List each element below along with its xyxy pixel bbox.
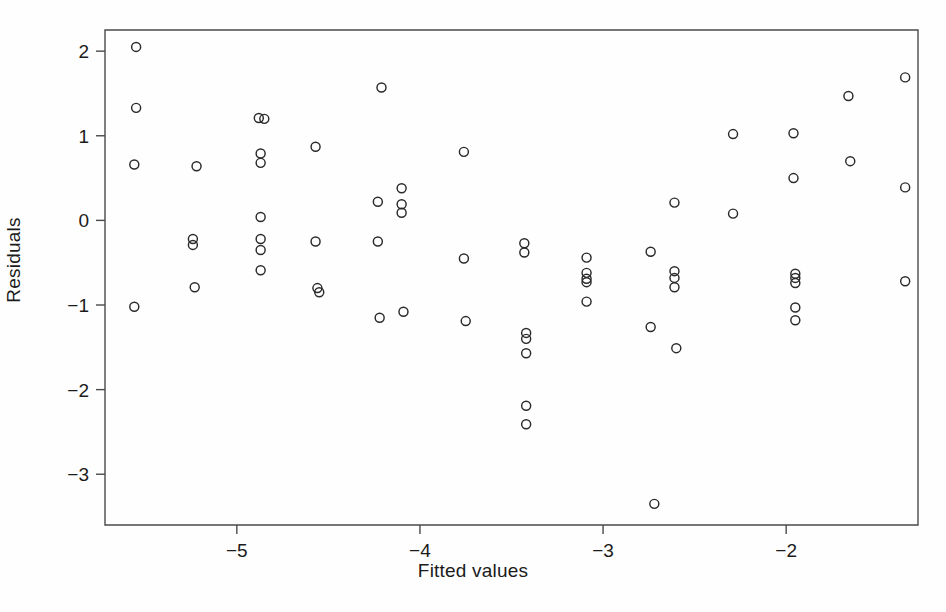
data-point — [397, 208, 406, 217]
data-point — [256, 149, 265, 158]
data-point — [789, 174, 798, 183]
data-point — [130, 302, 139, 311]
data-point — [311, 142, 320, 151]
y-axis-ticks: 210−1−2−3 — [67, 41, 105, 485]
data-point — [188, 240, 197, 249]
plot-canvas: −5−4−3−2 210−1−2−3 — [0, 0, 946, 612]
data-point — [373, 237, 382, 246]
data-point — [522, 401, 531, 410]
data-point — [582, 253, 591, 262]
data-point — [256, 213, 265, 222]
x-tick-label: −2 — [775, 540, 797, 561]
data-point — [256, 266, 265, 275]
data-point — [789, 129, 798, 138]
y-tick-label: 0 — [78, 210, 89, 231]
data-point — [670, 283, 679, 292]
data-point — [844, 92, 853, 101]
data-point — [397, 200, 406, 209]
data-point — [190, 283, 199, 292]
x-axis-ticks: −5−4−3−2 — [226, 525, 797, 561]
data-point — [459, 147, 468, 156]
data-point — [520, 239, 529, 248]
data-point — [901, 183, 910, 192]
data-point — [646, 323, 655, 332]
data-point — [646, 247, 655, 256]
x-tick-label: −3 — [592, 540, 614, 561]
data-point — [377, 83, 386, 92]
data-point — [192, 162, 201, 171]
data-point — [729, 130, 738, 139]
data-point — [520, 248, 529, 257]
data-point — [522, 334, 531, 343]
y-tick-label: −2 — [67, 380, 89, 401]
data-point — [132, 42, 141, 51]
data-point — [672, 344, 681, 353]
data-point — [522, 349, 531, 358]
data-point — [791, 303, 800, 312]
data-point — [132, 103, 141, 112]
y-tick-label: 2 — [78, 41, 89, 62]
data-point — [256, 246, 265, 255]
data-point — [130, 160, 139, 169]
data-point — [256, 235, 265, 244]
data-point — [846, 157, 855, 166]
data-point — [729, 209, 738, 218]
residuals-vs-fitted-scatter-plot: −5−4−3−2 210−1−2−3 Residuals Fitted valu… — [0, 0, 946, 612]
data-point — [461, 317, 470, 326]
data-point — [901, 277, 910, 286]
data-point — [311, 237, 320, 246]
data-point — [901, 73, 910, 82]
x-tick-label: −4 — [409, 540, 431, 561]
y-tick-label: 1 — [78, 126, 89, 147]
data-point — [582, 297, 591, 306]
x-tick-label: −5 — [226, 540, 248, 561]
y-axis-title: Residuals — [3, 160, 25, 360]
x-axis-title: Fitted values — [0, 560, 946, 582]
data-point — [373, 197, 382, 206]
data-point — [522, 420, 531, 429]
y-axis-title-container: Residuals — [3, 160, 33, 360]
y-tick-label: −1 — [67, 295, 89, 316]
data-point — [650, 499, 659, 508]
data-point — [256, 158, 265, 167]
data-point — [399, 307, 408, 316]
data-point — [260, 114, 269, 123]
data-point-markers — [130, 42, 910, 508]
data-point — [459, 254, 468, 263]
y-tick-label: −3 — [67, 464, 89, 485]
data-point — [397, 184, 406, 193]
data-point — [375, 313, 384, 322]
data-point — [791, 316, 800, 325]
data-point — [670, 198, 679, 207]
data-point — [670, 273, 679, 282]
